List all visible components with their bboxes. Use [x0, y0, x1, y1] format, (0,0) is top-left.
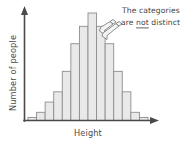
histogram-bars: [28, 13, 148, 121]
annotation-line-2-after: distinct: [149, 18, 180, 27]
histogram-bar: [71, 44, 80, 121]
annotation-line-2-before: are: [121, 18, 136, 27]
histogram-bar: [122, 92, 131, 121]
annotation-pointers: [100, 20, 123, 40]
annotation-emphasis-not: not: [136, 18, 149, 27]
histogram-bar: [97, 26, 106, 120]
histogram-bar: [114, 71, 123, 120]
annotation-text-block: The categories are not distinct: [121, 6, 180, 28]
histogram-bar: [62, 71, 71, 120]
annotation-line-1: The categories: [121, 6, 180, 15]
histogram-bar: [105, 44, 114, 121]
histogram-svg: Number of people Height The categories a…: [0, 0, 189, 146]
histogram-bar: [131, 112, 140, 120]
histogram-bar: [54, 92, 63, 121]
histogram-bar: [45, 102, 54, 120]
x-axis-arrowhead-icon: [150, 117, 159, 124]
y-axis-arrowhead-icon: [21, 6, 28, 15]
y-axis-label: Number of people: [8, 35, 18, 111]
y-axis: [21, 6, 28, 121]
histogram-bar: [37, 112, 46, 120]
x-axis-label: Height: [74, 128, 103, 138]
histogram-bar: [79, 26, 88, 120]
histogram-figure: Number of people Height The categories a…: [0, 0, 189, 146]
histogram-bar: [88, 13, 97, 121]
annotation-line-2: are not distinct: [121, 18, 180, 27]
